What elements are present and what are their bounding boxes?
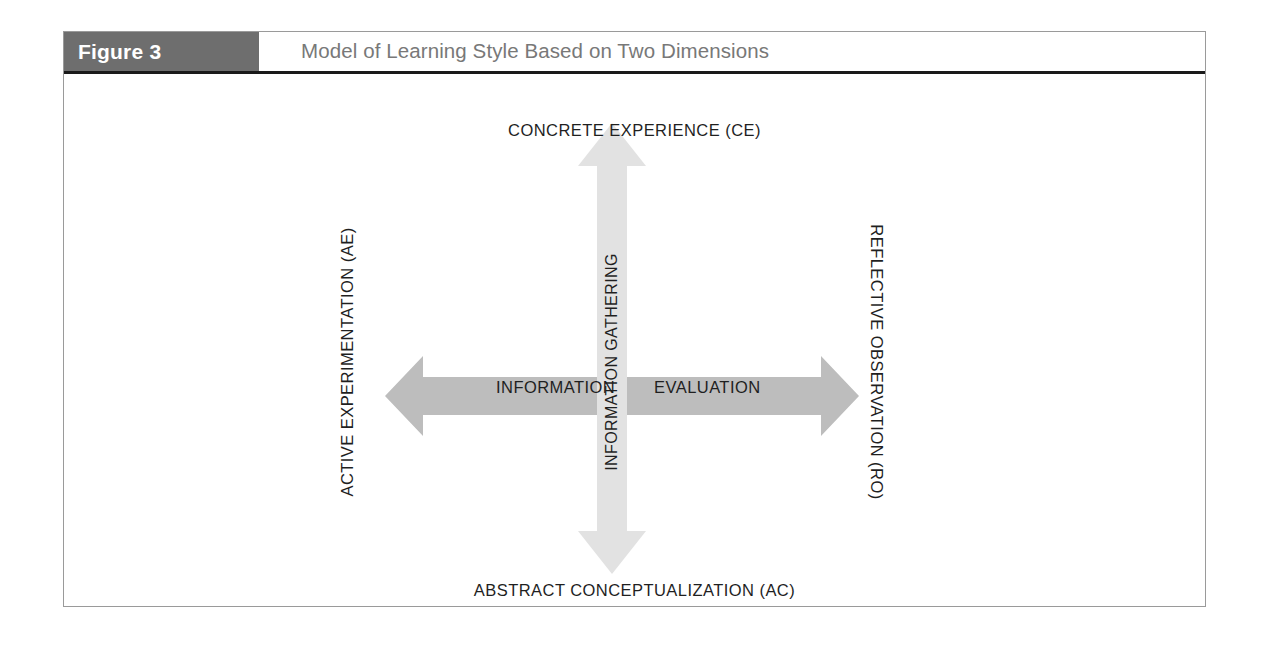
diagram-canvas: CONCRETE EXPERIENCE (CE) ABSTRACT CONCEP…: [64, 74, 1205, 606]
label-concrete-experience: CONCRETE EXPERIENCE (CE): [64, 122, 1205, 139]
label-evaluation: EVALUATION: [654, 379, 761, 396]
label-active-experimentation: ACTIVE EXPERIMENTATION (AE): [339, 227, 356, 496]
label-information-gathering: INFORMATION GATHERING: [604, 253, 620, 471]
figure-number-label: Figure 3: [78, 41, 161, 62]
figure-header: Figure 3 Model of Learning Style Based o…: [64, 32, 1205, 74]
figure-number-box: Figure 3: [64, 32, 259, 71]
label-information: INFORMATION: [496, 379, 615, 396]
label-abstract-conceptualization: ABSTRACT CONCEPTUALIZATION (AC): [64, 582, 1205, 599]
figure-title-box: Model of Learning Style Based on Two Dim…: [259, 32, 1205, 71]
figure-title: Model of Learning Style Based on Two Dim…: [301, 41, 769, 62]
diagram-arrows-svg: [64, 74, 1205, 606]
label-reflective-observation: REFLECTIVE OBSERVATION (RO): [869, 224, 886, 499]
figure-frame: Figure 3 Model of Learning Style Based o…: [63, 31, 1206, 607]
